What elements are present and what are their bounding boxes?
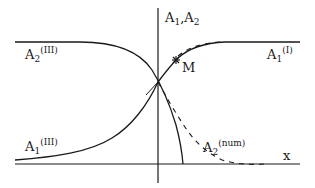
label-a1-i: A1(I) [267,46,293,64]
label-a2-iii-base: A [25,47,34,62]
x-axis-label: x [283,149,290,162]
diagram-canvas [0,0,315,188]
label-a2-num-base: A [203,140,212,155]
label-a2-num-sub: 2 [212,147,218,157]
label-point-m: M [182,61,195,74]
label-a2-iii: A2(III) [25,46,58,64]
label-a2-iii-sub: 2 [34,54,40,64]
y-axis-label-a2: ,A [180,10,194,25]
label-a1-iii-sup: (III) [40,137,58,147]
label-a1-iii: A1(III) [25,138,58,156]
y-axis-label-sub2: 2 [194,17,200,27]
label-a1-i-sub: 1 [276,54,282,64]
point-m-marker [172,56,180,64]
label-a1-iii-sub: 1 [34,146,40,156]
label-a1-i-base: A [267,47,276,62]
label-a2-iii-sup: (III) [40,45,58,55]
label-a1-iii-base: A [25,139,34,154]
label-a1-i-sup: (I) [282,45,293,55]
label-a2-num: A2(num) [203,139,245,157]
y-axis-label: A1,A2 [165,11,199,27]
y-axis-label-a1: A [165,10,174,25]
label-a2-num-sup: (num) [218,138,245,148]
